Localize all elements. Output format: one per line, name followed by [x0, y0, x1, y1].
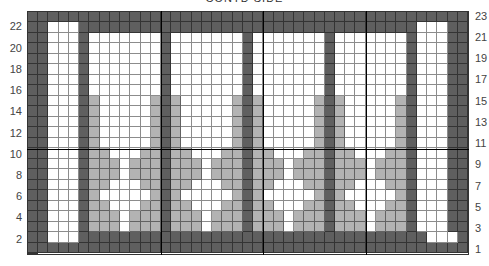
- chart-cell: [120, 222, 130, 232]
- chart-cell: [386, 75, 396, 85]
- chart-cell: [212, 12, 222, 22]
- chart-cell: [448, 43, 458, 53]
- chart-cell: [202, 117, 212, 127]
- chart-cell: [110, 180, 120, 190]
- chart-cell: [100, 180, 110, 190]
- chart-cell: [89, 138, 99, 148]
- right-row-label: 7: [475, 181, 489, 192]
- chart-cell: [222, 106, 232, 116]
- chart-cell: [437, 159, 447, 169]
- right-row-label: 1: [475, 244, 489, 255]
- chart-cell: [335, 222, 345, 232]
- chart-cell: [376, 180, 386, 190]
- chart-cell: [396, 117, 406, 127]
- chart-cell: [335, 180, 345, 190]
- chart-cell: [28, 190, 38, 200]
- chart-cell: [48, 96, 58, 106]
- chart-cell: [315, 12, 325, 22]
- chart-cell: [130, 33, 140, 43]
- chart-cell: [130, 85, 140, 95]
- chart-cell: [69, 159, 79, 169]
- chart-cell: [427, 106, 437, 116]
- chart-cell: [355, 106, 365, 116]
- chart-cell: [427, 180, 437, 190]
- chart-cell: [427, 159, 437, 169]
- chart-cell: [59, 180, 69, 190]
- chart-cell: [448, 64, 458, 74]
- chart-cell: [38, 180, 48, 190]
- chart-cell: [48, 43, 58, 53]
- chart-title: CONTD SIDE: [0, 0, 489, 4]
- chart-cell: [79, 232, 89, 242]
- chart-cell: [89, 43, 99, 53]
- left-row-label: 22: [4, 21, 22, 32]
- chart-cell: [110, 201, 120, 211]
- chart-cell: [427, 243, 437, 253]
- chart-cell: [110, 232, 120, 242]
- chart-cell: [448, 159, 458, 169]
- chart-cell: [294, 43, 304, 53]
- chart-cell: [192, 85, 202, 95]
- chart-cell: [151, 12, 161, 22]
- chart-cell: [38, 117, 48, 127]
- chart-cell: [233, 33, 243, 43]
- chart-cell: [417, 243, 427, 253]
- chart-cell: [335, 138, 345, 148]
- chart-cell: [181, 43, 191, 53]
- chart-cell: [304, 232, 314, 242]
- chart-cell: [407, 243, 417, 253]
- left-row-label: 18: [4, 64, 22, 75]
- chart-cell: [448, 54, 458, 64]
- chart-cell: [355, 190, 365, 200]
- chart-cell: [407, 138, 417, 148]
- chart-cell: [222, 75, 232, 85]
- chart-cell: [151, 64, 161, 74]
- chart-cell: [448, 106, 458, 116]
- chart-cell: [335, 85, 345, 95]
- left-row-label: 20: [4, 43, 22, 54]
- chart-cell: [274, 222, 284, 232]
- chart-cell: [212, 180, 222, 190]
- chart-cell: [396, 85, 406, 95]
- chart-cell: [100, 159, 110, 169]
- chart-cell: [38, 138, 48, 148]
- chart-cell: [161, 54, 171, 64]
- chart-cell: [79, 169, 89, 179]
- chart-cell: [284, 127, 294, 137]
- chart-cell: [315, 43, 325, 53]
- chart-cell: [202, 43, 212, 53]
- chart-cell: [355, 43, 365, 53]
- chart-cell: [243, 211, 253, 221]
- chart-cell: [141, 180, 151, 190]
- chart-cell: [110, 127, 120, 137]
- chart-cell: [141, 33, 151, 43]
- chart-cell: [100, 12, 110, 22]
- chart-cell: [243, 243, 253, 253]
- chart-cell: [89, 33, 99, 43]
- chart-cell: [253, 12, 263, 22]
- chart-cell: [345, 75, 355, 85]
- chart-cell: [355, 232, 365, 242]
- chart-cell: [28, 12, 38, 22]
- chart-cell: [28, 243, 38, 253]
- chart-cell: [376, 232, 386, 242]
- chart-cell: [366, 169, 376, 179]
- chart-cell: [243, 22, 253, 32]
- chart-cell: [28, 159, 38, 169]
- chart-cell: [38, 169, 48, 179]
- chart-cell: [202, 211, 212, 221]
- chart-cell: [315, 54, 325, 64]
- chart-cell: [366, 106, 376, 116]
- chart-cell: [396, 211, 406, 221]
- chart-cell: [181, 201, 191, 211]
- chart-cell: [284, 169, 294, 179]
- chart-cell: [335, 33, 345, 43]
- chart-cell: [325, 12, 335, 22]
- chart-cell: [427, 64, 437, 74]
- chart-cell: [243, 222, 253, 232]
- chart-cell: [69, 85, 79, 95]
- chart-cell: [274, 180, 284, 190]
- chart-cell: [458, 22, 468, 32]
- chart-cell: [171, 117, 181, 127]
- chart-cell: [202, 22, 212, 32]
